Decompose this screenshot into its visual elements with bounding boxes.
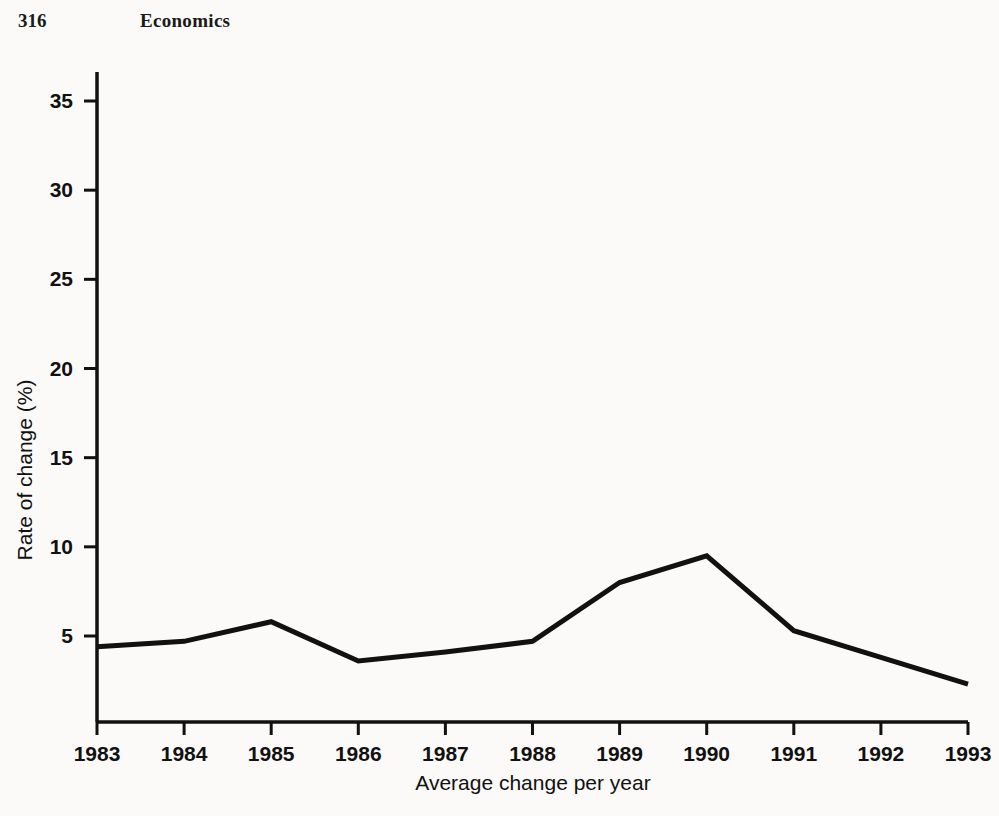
x-tick-label: 1990 [683,742,730,765]
x-tick-label: 1985 [248,742,295,765]
y-tick-label: 25 [50,267,74,290]
chart-svg: 5101520253035 19831984198519861987198819… [0,0,999,816]
x-axis-tick-labels: 1983198419851986198719881989199019911992… [74,742,992,765]
y-tick-label: 20 [50,357,73,380]
y-tick-label: 35 [50,89,74,112]
line-chart-figure: 5101520253035 19831984198519861987198819… [0,0,999,816]
y-tick-label: 10 [50,535,73,558]
y-tick-label: 5 [61,624,73,647]
data-series-line [97,556,968,684]
book-page: 316 Economics 5101520253035 198319841985… [0,0,999,816]
y-axis-title: Rate of change (%) [13,380,36,561]
x-tick-label: 1993 [945,742,992,765]
x-tick-label: 1989 [596,742,643,765]
x-tick-label: 1987 [422,742,469,765]
x-tick-label: 1983 [74,742,121,765]
x-tick-label: 1986 [335,742,382,765]
x-axis-ticks [97,722,968,735]
y-tick-label: 15 [50,446,74,469]
x-tick-label: 1988 [509,742,556,765]
x-axis-title: Average change per year [415,771,650,794]
x-tick-label: 1992 [858,742,905,765]
x-tick-label: 1991 [770,742,817,765]
y-tick-label: 30 [50,178,73,201]
y-axis-tick-labels: 5101520253035 [50,89,74,647]
y-axis-ticks [84,101,97,636]
x-tick-label: 1984 [161,742,208,765]
